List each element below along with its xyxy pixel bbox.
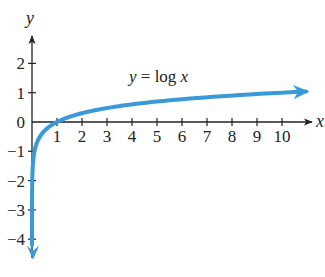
y-tick-label: −4 [7,230,26,249]
x-tick-label: 2 [78,127,87,146]
x-tick-label: 8 [228,127,237,146]
annotation-eq: = log [137,67,181,86]
x-tick-label: 5 [153,127,162,146]
annotation-y: y [127,67,137,86]
x-tick-label: 3 [103,127,112,146]
log-curve [32,92,306,246]
y-tick-label: −1 [7,142,25,161]
x-tick-label: 4 [128,127,137,146]
log-function-chart: 12345678910 210−1−2−3−4 x y y = log x [0,0,325,277]
y-tick-label: 2 [17,54,26,73]
x-tick-label: 1 [53,127,62,146]
y-tick-label: −3 [7,201,25,220]
x-axis-label: x [315,111,324,131]
x-tick-label: 7 [203,127,212,146]
function-annotation: y = log x [127,67,189,86]
annotation-x: x [180,67,189,86]
y-tick-label: 0 [17,113,26,132]
y-tick-label: −2 [7,172,25,191]
y-axis-label: y [24,8,34,28]
log-curve-down-arrow [27,246,39,260]
x-tick-label: 6 [178,127,187,146]
x-tick-label: 9 [253,127,262,146]
x-tick-label: 10 [274,127,291,146]
y-tick-label: 1 [17,84,26,103]
